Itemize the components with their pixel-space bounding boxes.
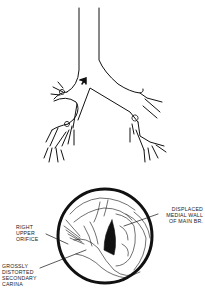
label-line: ORIFICE [16, 236, 38, 242]
bronchoscopic-sketch [64, 198, 150, 278]
label-grossly-distorted-secondary-carina: GROSSLY DISTORTED SECONDARY CARINA [2, 263, 37, 287]
trachea-right-wall [99, 8, 143, 93]
label-line: OF MAIN BR. [166, 218, 203, 224]
bronchial-tree-diagram [0, 0, 205, 303]
carina [78, 88, 138, 122]
label-displaced-medial-wall: DISPLACED MEDIAL WALL OF MAIN BR. [166, 206, 203, 224]
leader-distorted-carina [40, 250, 86, 268]
trachea-left-wall [67, 8, 79, 92]
arrow-icon [80, 78, 86, 84]
label-right-upper-orifice: RIGHT UPPER ORIFICE [16, 224, 38, 242]
label-line: CARINA [2, 281, 37, 287]
